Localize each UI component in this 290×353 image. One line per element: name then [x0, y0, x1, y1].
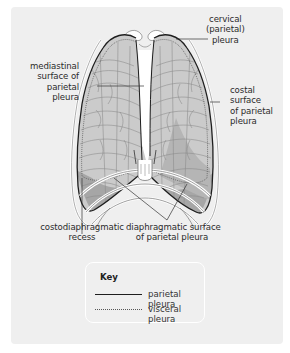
label-cervical-pleura: cervical (parietal) pleura: [206, 14, 245, 45]
label-diaphragmatic-surface: diaphragmatic surface of parietal pleura: [126, 222, 218, 243]
legend-title: Key: [100, 272, 118, 282]
label-mediastinal-surface: mediastinal surface of parietal pleura: [24, 61, 79, 103]
dotted-line-icon: [95, 309, 142, 310]
legend-item-parietal: parietal pleura: [92, 289, 202, 299]
label-costodiaphragmatic-recess: costodiaphragmatic recess: [40, 222, 124, 243]
legend-item-visceral: visceral pleura: [92, 304, 202, 314]
legend-key: Key parietal pleura visceral pleura: [85, 262, 205, 323]
label-costal-surface: costal surface of parietal pleura: [230, 85, 273, 127]
solid-line-icon: [95, 294, 142, 295]
legend-label: visceral pleura: [148, 304, 202, 324]
